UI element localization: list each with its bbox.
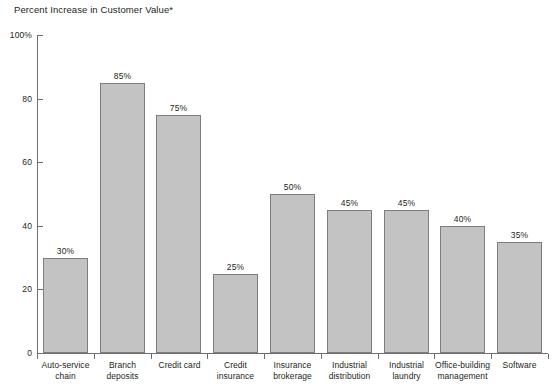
x-axis-tick [94,354,95,359]
x-axis-category-label: Industriallaundry [378,360,435,382]
x-axis-tick [378,354,379,359]
x-axis-category-label: Auto-servicechain [37,360,94,382]
category-label-line: chain [37,371,94,382]
bar-chart: Percent Increase in Customer Value* 100%… [0,0,553,392]
x-axis-category-label: Credit insurance [207,360,264,382]
y-axis-line [37,35,38,354]
category-label-line: Software [491,360,548,371]
category-label-line: Office-building [434,360,491,371]
y-axis-tick-label: 100% [0,30,32,40]
x-axis-tick [321,354,322,359]
bar [43,258,88,353]
bar [327,210,372,353]
y-axis-tick [38,162,43,163]
y-axis-tick [38,35,43,36]
category-label-line: Credit card [151,360,208,371]
bar [497,242,542,353]
category-label-line: Industrial [378,360,435,371]
x-axis-category-label: Insurancebrokerage [264,360,321,382]
y-axis-tick [38,99,43,100]
x-axis-category-label: Branch deposits [94,360,151,382]
x-axis-tick [264,354,265,359]
y-axis-tick [38,226,43,227]
category-label-line: Auto-service [37,360,94,371]
bar-value-label: 85% [85,71,160,81]
y-axis-tick-label: 0 [0,348,32,358]
category-label-line: brokerage [264,371,321,382]
category-label-line: management [434,371,491,382]
bar-value-label: 45% [369,198,444,208]
y-axis-tick [38,353,43,354]
x-axis-category-label: Industrialdistribution [321,360,378,382]
bar [384,210,429,353]
chart-title: Percent Increase in Customer Value* [14,4,173,15]
category-label-line: distribution [321,371,378,382]
x-axis-category-label: Credit card [151,360,208,371]
bar-value-label: 35% [482,230,553,240]
y-axis-tick-label: 20 [0,284,32,294]
x-axis-tick [37,354,38,359]
bar-value-label: 50% [255,182,330,192]
bar [100,83,145,353]
category-label-line: Credit insurance [207,360,264,382]
category-label-line: laundry [378,371,435,382]
category-label-line: Insurance [264,360,321,371]
bar-value-label: 30% [28,246,103,256]
x-axis-tick [151,354,152,359]
bar-value-label: 40% [425,214,500,224]
x-axis-tick [207,354,208,359]
bar-value-label: 75% [141,103,216,113]
category-label-line: Branch deposits [94,360,151,382]
category-label-line: Industrial [321,360,378,371]
x-axis-category-label: Office-buildingmanagement [434,360,491,382]
x-axis-tick [434,354,435,359]
y-axis-tick-label: 80 [0,94,32,104]
y-axis-tick-label: 60 [0,157,32,167]
bar [270,194,315,353]
x-axis-tick [491,354,492,359]
bar [213,274,258,353]
bar-value-label: 25% [198,262,273,272]
x-axis-tick [548,354,549,359]
y-axis-tick-label: 40 [0,221,32,231]
bar [440,226,485,353]
bar [156,115,201,353]
x-axis-category-label: Software [491,360,548,371]
x-axis-line [37,353,548,354]
